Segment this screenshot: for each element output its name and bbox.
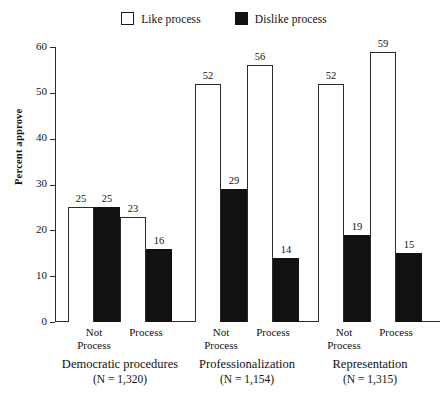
bar-dislike-0-0: 25 (94, 207, 120, 322)
x-group-label: Representation (296, 357, 444, 372)
x-group-sample-size: (N = 1,315) (296, 373, 444, 385)
bar-value-label: 56 (255, 51, 266, 62)
y-tick-label: 0 (27, 315, 47, 327)
y-tick-label: 50 (27, 85, 47, 97)
bar-like-1-1: 56 (247, 65, 273, 322)
bar-dislike-2-0: 19 (344, 235, 370, 322)
bar-chart-figure: Like process Dislike process Percent app… (0, 0, 448, 394)
y-tick-mark (50, 185, 55, 186)
bar-like-2-1: 59 (370, 52, 396, 322)
bar-like-1-0: 52 (195, 84, 221, 322)
y-tick-label: 30 (27, 177, 47, 189)
bar-dislike-0-1: 16 (146, 249, 172, 322)
y-axis-line (55, 47, 56, 322)
y-axis-title: Percent approve (13, 109, 24, 185)
legend-label-like-process: Like process (141, 13, 201, 25)
x-group-sample-size: (N = 1,320) (46, 373, 194, 385)
bar-value-label: 23 (128, 203, 139, 214)
bar-value-label: 25 (76, 193, 87, 204)
bar-value-label: 14 (281, 244, 292, 255)
bar-like-0-0: 25 (68, 207, 94, 322)
bar-value-label: 15 (404, 239, 415, 250)
bar-value-label: 29 (229, 175, 240, 186)
chart-legend: Like process Dislike process (0, 12, 448, 25)
y-tick-label: 40 (27, 131, 47, 143)
bar-like-2-0: 52 (318, 84, 344, 322)
legend-swatch-open-icon (121, 12, 134, 25)
bar-value-label: 59 (378, 38, 389, 49)
y-tick-mark (50, 139, 55, 140)
bar-value-label: 19 (352, 221, 363, 232)
bar-value-label: 52 (326, 70, 337, 81)
legend-swatch-filled-icon (235, 12, 248, 25)
legend-label-dislike-process: Dislike process (255, 13, 327, 25)
bar-like-0-1: 23 (120, 217, 146, 322)
bar-value-label: 16 (154, 235, 165, 246)
legend-item-dislike-process: Dislike process (235, 12, 327, 25)
x-category-label: Process (361, 326, 431, 339)
plot-area: 0102030405060 252523165229561452195915 (55, 47, 440, 322)
bar-dislike-1-0: 29 (221, 189, 247, 322)
y-tick-mark (50, 230, 55, 231)
y-tick-mark (50, 93, 55, 94)
x-category-label: Process (238, 326, 308, 339)
y-tick-mark (50, 322, 55, 323)
y-tick-label: 20 (27, 223, 47, 235)
legend-item-like-process: Like process (121, 12, 201, 25)
bar-dislike-2-1: 15 (396, 253, 422, 322)
x-group-label: Democratic procedures (46, 357, 194, 372)
bar-value-label: 52 (203, 70, 214, 81)
bar-value-label: 25 (102, 193, 113, 204)
bar-dislike-1-1: 14 (273, 258, 299, 322)
x-category-label: Process (111, 326, 181, 339)
y-tick-label: 60 (27, 40, 47, 52)
y-tick-label: 10 (27, 269, 47, 281)
y-tick-mark (50, 276, 55, 277)
y-tick-mark (50, 47, 55, 48)
